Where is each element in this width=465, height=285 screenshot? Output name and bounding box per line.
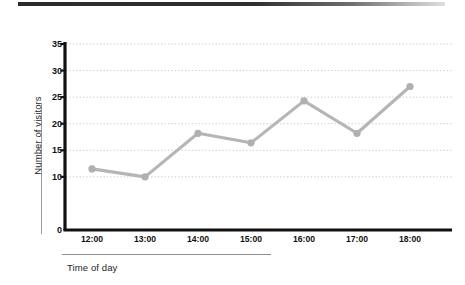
visitors-line (92, 87, 410, 177)
chart-page: Number of visitors Time of day 010152025… (0, 0, 465, 285)
data-point (406, 83, 413, 90)
data-markers (88, 83, 413, 181)
data-point (247, 139, 254, 146)
data-point (300, 97, 307, 104)
line-chart-figure: Number of visitors Time of day 010152025… (0, 0, 465, 285)
data-point (194, 130, 201, 137)
data-point (88, 165, 95, 172)
gridlines (66, 44, 452, 177)
plot-area (0, 0, 465, 285)
data-point (141, 173, 148, 180)
data-line (92, 87, 410, 177)
data-point (353, 130, 360, 137)
